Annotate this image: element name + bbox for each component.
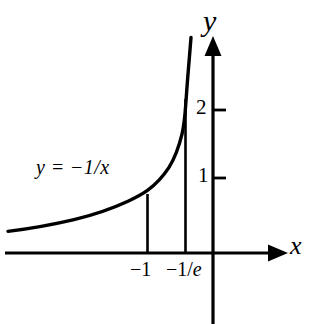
- drop-lines: [148, 99, 186, 253]
- y-axis-ticks: [213, 110, 226, 178]
- xtick-neg1overe-variable: e: [193, 258, 202, 280]
- curve-equation-annotation: y = −1/x: [36, 157, 110, 177]
- y-axis-label: y: [203, 6, 216, 36]
- ytick-label-2: 2: [196, 97, 207, 118]
- ytick-label-1: 1: [198, 165, 209, 186]
- xtick-neg1overe-prefix: −1/: [166, 258, 193, 280]
- xtick-label-negative-one: −1: [130, 259, 151, 279]
- y-axis-arrowhead-icon: [205, 36, 222, 56]
- curve-y-equals-neg-one-over-x: [8, 38, 191, 232]
- graph-figure: y x y = −1/x 2 1 −1 −1/e: [0, 0, 316, 324]
- x-axis-arrowhead-icon: [268, 245, 288, 262]
- x-axis-label: x: [290, 233, 302, 259]
- xtick-label-negative-one-over-e: −1/e: [166, 259, 202, 279]
- curve-path: [8, 38, 191, 232]
